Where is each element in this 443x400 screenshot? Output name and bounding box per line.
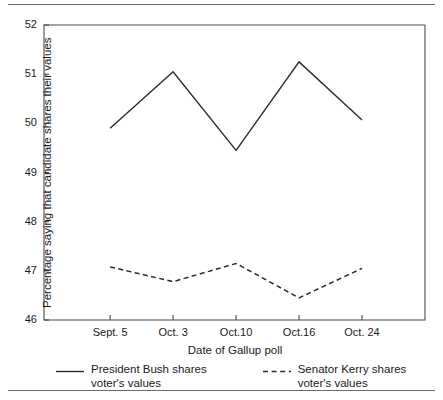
y-tick-label: 50 (11, 116, 37, 128)
legend-label-bush: President Bush shares voter's values (91, 362, 207, 390)
x-axis-ticks (110, 315, 362, 320)
y-tick-label: 51 (11, 67, 37, 79)
x-axis-title: Date of Gallup poll (44, 344, 426, 356)
plot-area (0, 0, 443, 400)
y-tick-label: 48 (11, 215, 37, 227)
x-tick-label: Oct.10 (220, 326, 252, 338)
legend-item-kerry: Senator Kerry shares voter's values (262, 362, 435, 390)
solid-line-sample-icon (55, 366, 85, 377)
y-tick-label: 52 (11, 18, 37, 30)
dashed-line-sample-icon (262, 366, 292, 377)
y-tick-label: 46 (11, 313, 37, 325)
series-line-kerry (110, 263, 362, 297)
x-tick-label: Oct. 3 (158, 326, 187, 338)
axes (44, 25, 425, 320)
axis-frame (44, 25, 425, 320)
legend-label-kerry: Senator Kerry shares voter's values (298, 362, 407, 390)
y-tick-label: 49 (11, 166, 37, 178)
x-tick-label: Sept. 5 (93, 326, 128, 338)
chart-figure: 46474849505152 Sept. 5Oct. 3Oct.10Oct.16… (0, 0, 443, 400)
chart-legend: President Bush shares voter's values Sen… (55, 362, 435, 390)
legend-item-bush: President Bush shares voter's values (55, 362, 244, 390)
y-axis-title: Percentage saying that candidate shares … (41, 48, 53, 308)
x-tick-label: Oct.16 (283, 326, 315, 338)
series-line-bush (110, 62, 362, 150)
y-tick-label: 47 (11, 264, 37, 276)
x-tick-label: Oct. 24 (344, 326, 379, 338)
